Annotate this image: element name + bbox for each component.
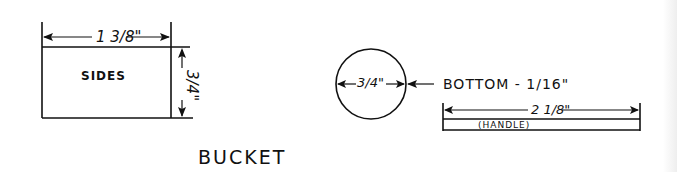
sides-label: SIDES (81, 69, 126, 83)
bottom-label: BOTTOM - 1/16" (443, 76, 569, 92)
sides-height-dimension: 3/4" (183, 70, 201, 101)
sides-width-dimension: 1 3/8" (96, 28, 141, 46)
bottom-diameter-dimension: 3/4" (357, 75, 384, 90)
drawing-title: BUCKET (198, 146, 286, 168)
handle-piece: 2 1/8" (HANDLE) (443, 102, 640, 131)
handle-length-dimension: 2 1/8" (531, 102, 570, 117)
bucket-template-drawing: 1 3/8" 3/4" SIDES 3/4" BOTTOM - 1/16" 2 … (0, 0, 677, 172)
handle-label: (HANDLE) (478, 120, 530, 130)
sides-piece: 1 3/8" 3/4" SIDES (42, 22, 201, 118)
